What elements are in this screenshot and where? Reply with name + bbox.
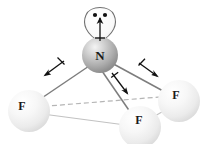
atom-label-fluorine-right: F <box>172 88 179 102</box>
atom-fluorine-left <box>8 90 50 132</box>
atom-label-nitrogen: N <box>95 48 105 63</box>
dipole-arrow-left <box>44 58 65 77</box>
lone-pair-dot <box>103 13 107 17</box>
lone-pair-dot <box>93 13 97 17</box>
edge-f-left-to-f-front <box>35 113 133 126</box>
edge-f-left-to-f-right <box>36 96 172 107</box>
atom-label-fluorine-front: F <box>135 113 142 127</box>
dipole-arrow-front <box>111 72 128 95</box>
molecule-canvas: N F F F <box>0 0 201 144</box>
atom-label-fluorine-left: F <box>18 99 25 113</box>
molecule-diagram: N F F F <box>0 0 201 144</box>
dipole-arrow-right <box>139 59 159 78</box>
